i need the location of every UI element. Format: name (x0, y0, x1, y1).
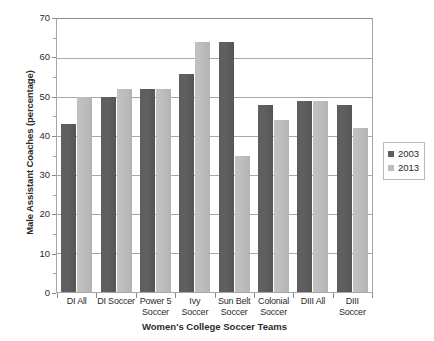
x-axis-label-line: Ivy Soccer (175, 296, 214, 318)
bar-group (136, 19, 175, 292)
bar-group (254, 19, 293, 292)
x-axis-label-line: DI Soccer (96, 296, 135, 307)
x-axis-label-diii-all: DIII All (293, 296, 332, 318)
bar-chart: Male Assistant Coaches (percentage) 7060… (0, 0, 434, 341)
bar-group (175, 19, 214, 292)
x-axis-label-line: Sun Belt (215, 296, 254, 307)
bar-2013-sun-belt-soccer (235, 156, 250, 293)
y-tick-label-50: 50 (10, 92, 50, 101)
x-axis-label-ivy-soccer: Ivy Soccer (175, 296, 214, 318)
y-tick-label-70: 70 (10, 13, 50, 22)
bar-group (96, 19, 135, 292)
y-tick-label-30: 30 (10, 170, 50, 179)
x-axis-label-line: Soccer (136, 307, 175, 318)
x-axis-label-sun-belt-soccer: Sun BeltSoccer (215, 296, 254, 318)
x-axis-label-line: Power 5 (136, 296, 175, 307)
bar-2003-di-soccer (101, 97, 116, 292)
bar-group (215, 19, 254, 292)
bar-2003-power-5-soccer (140, 89, 155, 292)
bar-2013-di-all (77, 97, 92, 292)
y-tick-label-60: 60 (10, 52, 50, 61)
bar-2003-diii-all (297, 101, 312, 292)
y-tick-label-20: 20 (10, 209, 50, 218)
legend-swatch-2003-icon (388, 151, 394, 157)
y-tick-label-0: 0 (10, 288, 50, 297)
x-axis-label-di-all: DI All (57, 296, 96, 318)
bar-group (333, 19, 372, 292)
x-axis-label-line: DIII (333, 296, 372, 307)
y-tick-label-40: 40 (10, 131, 50, 140)
bar-2003-di-all (61, 124, 76, 292)
x-axis-label-line: Soccer (333, 307, 372, 318)
x-axis-label-di-soccer: DI Soccer (96, 296, 135, 318)
bar-2003-colonial-soccer (258, 105, 273, 292)
bar-group (293, 19, 332, 292)
x-axis-label-line: Soccer (215, 307, 254, 318)
x-axis-label-colonial-soccer: ColonialSoccer (254, 296, 293, 318)
y-axis-title: Male Assistant Coaches (percentage) (24, 38, 35, 268)
x-axis-title: Women's College Soccer Teams (56, 321, 373, 332)
bar-2003-ivy-soccer (179, 74, 194, 292)
legend-item-2013: 2013 (388, 161, 419, 175)
bar-2013-ivy-soccer (195, 42, 210, 292)
bar-2013-colonial-soccer (274, 120, 289, 292)
bar-2003-sun-belt-soccer (219, 42, 234, 292)
y-tick-mark-0 (52, 293, 56, 294)
legend-item-2003: 2003 (388, 147, 419, 161)
x-tick-mark-8 (372, 293, 373, 298)
legend-label: 2013 (398, 163, 419, 173)
x-axis-label-line: DI All (57, 296, 96, 307)
x-axis-label-line: Colonial (254, 296, 293, 307)
bar-2013-power-5-soccer (156, 89, 171, 292)
y-tick-label-10: 10 (10, 249, 50, 258)
x-axis-label-line: DIII All (293, 296, 332, 307)
x-axis-label-diii-soccer: DIIISoccer (333, 296, 372, 318)
bar-2003-diii-soccer (337, 105, 352, 292)
x-axis-label-line: Soccer (254, 307, 293, 318)
legend-label: 2003 (398, 149, 419, 159)
x-axis-label-power-5-soccer: Power 5Soccer (136, 296, 175, 318)
bar-group-container (57, 19, 372, 292)
legend-swatch-2013-icon (388, 165, 394, 171)
bar-group (57, 19, 96, 292)
x-axis-label-group: DI AllDI SoccerPower 5SoccerIvy SoccerSu… (57, 296, 372, 318)
chart-legend: 20032013 (383, 142, 425, 180)
bar-2013-di-soccer (117, 89, 132, 292)
bar-2013-diii-soccer (353, 128, 368, 292)
bar-2013-diii-all (313, 101, 328, 292)
